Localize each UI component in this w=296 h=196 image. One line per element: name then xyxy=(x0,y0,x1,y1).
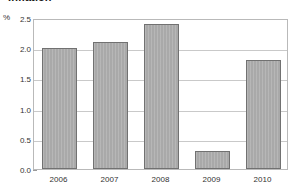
y-axis-tick-label: 1.5 xyxy=(1,75,31,84)
bar-2006[interactable] xyxy=(42,48,77,169)
y-axis-tick-label: 0.0 xyxy=(1,166,31,175)
bar-group[interactable] xyxy=(246,18,281,169)
bar-2007[interactable] xyxy=(93,42,128,169)
bar-2009[interactable] xyxy=(195,151,230,169)
x-axis-tick-label-2008: 2008 xyxy=(152,175,170,184)
bar-group[interactable] xyxy=(93,18,128,169)
bar-chart-figure: Inflation % 0.00.51.01.52.02.5 200620072… xyxy=(0,0,296,196)
bar-2010[interactable] xyxy=(246,60,281,169)
plot-area xyxy=(33,19,288,170)
x-axis-tick-label-2007: 2007 xyxy=(101,175,119,184)
x-axis-tick-label-2009: 2009 xyxy=(203,175,221,184)
y-axis-tick-label: 0.5 xyxy=(1,135,31,144)
y-axis-tick-label: 2.5 xyxy=(1,15,31,24)
y-axis-tick-mark xyxy=(33,170,37,171)
bars-container xyxy=(34,20,287,169)
y-axis-tick-label: 2.0 xyxy=(1,45,31,54)
bar-group[interactable] xyxy=(195,18,230,169)
y-axis-tick-label: 1.0 xyxy=(1,105,31,114)
bar-group[interactable] xyxy=(144,18,179,169)
x-axis-tick-label-2006: 2006 xyxy=(50,175,68,184)
y-axis-tick-labels: 0.00.51.01.52.02.5 xyxy=(0,19,31,170)
bar-2008[interactable] xyxy=(144,24,179,169)
chart-title: Inflation xyxy=(8,0,52,3)
bar-group[interactable] xyxy=(42,18,77,169)
x-axis-tick-label-2010: 2010 xyxy=(254,175,272,184)
